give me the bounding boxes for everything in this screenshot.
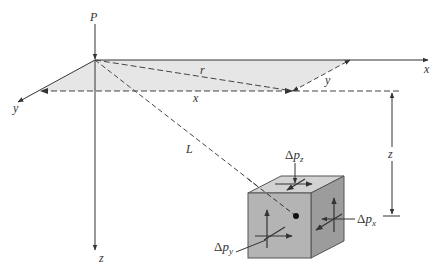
stress-diagram: x y z P x r y z L (0, 0, 443, 276)
stress-element-cube (248, 176, 344, 258)
dpy-label: Δpy (214, 239, 233, 256)
point-dot (293, 213, 299, 219)
dpx-label: Δpx (357, 211, 376, 228)
z-dimension-label: z (387, 147, 393, 161)
cube-front-face (248, 193, 311, 258)
x-distance-label: x (192, 91, 199, 105)
r-distance-label: r (200, 63, 205, 77)
diagram-svg: x y z P x r y z L (0, 0, 443, 276)
L-distance-label: L (185, 142, 193, 156)
x-axis-label: x (423, 62, 430, 76)
dpz-label: Δpz (285, 147, 304, 164)
y-axis-label: y (12, 101, 19, 115)
z-axis-label: z (98, 251, 104, 265)
load-label: P (89, 10, 98, 24)
y-distance-label: y (324, 73, 331, 87)
